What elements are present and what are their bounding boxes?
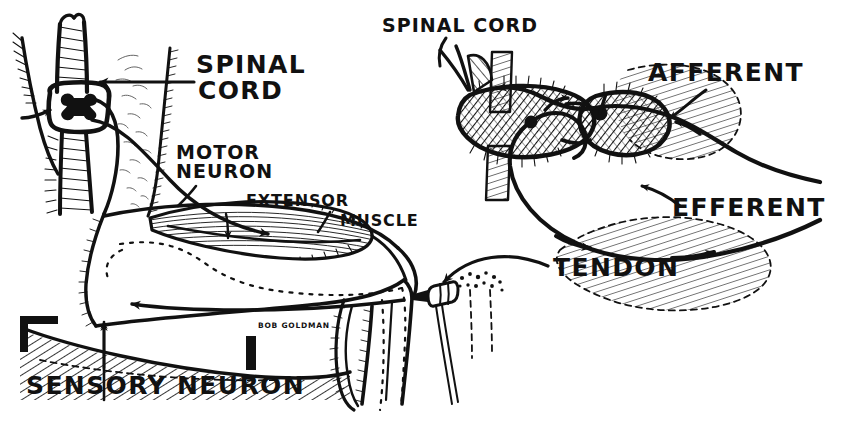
reflex-arc-figure: SPINAL CORD MOTOR NEURON EXTENSOR MUSCLE… — [0, 0, 852, 428]
label-motor-neuron: MOTOR NEURON — [176, 143, 273, 182]
label-tendon: TENDON — [553, 255, 679, 281]
vertebral-column — [13, 15, 109, 214]
label-efferent: EFFERENT — [672, 195, 826, 221]
label-afferent: AFFERENT — [648, 60, 804, 86]
label-extensor: EXTENSOR — [246, 193, 349, 209]
label-motor-neuron-line2: NEURON — [176, 162, 273, 181]
label-spinal-cord-left: SPINAL CORD — [196, 52, 306, 103]
label-spinal-cord-left-line2: CORD — [198, 78, 306, 104]
label-sensory-neuron: SENSORY NEURON — [26, 373, 305, 399]
label-spinal-cord-left-line1: SPINAL — [196, 50, 306, 79]
label-muscle: MUSCLE — [340, 213, 419, 229]
artist-signature: BOB GOLDMAN — [258, 322, 330, 330]
patellar-tendon-and-hammer — [412, 271, 504, 404]
torso-outline — [79, 48, 178, 326]
label-spinal-cord-right: SPINAL CORD — [382, 16, 538, 35]
